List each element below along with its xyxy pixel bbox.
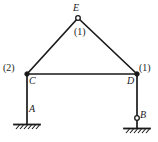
joint-label-C: C: [29, 76, 36, 86]
joint-label-B: B: [140, 110, 146, 120]
stiffness-label-apex: (1): [74, 27, 86, 37]
joint-marker-B-pin: [135, 116, 140, 121]
stiffness-label-left-column: (2): [3, 63, 15, 73]
frame-diagram-figure: E C D A B (1) (2) (1): [0, 0, 158, 142]
member-ED: [78, 18, 137, 74]
joint-label-A: A: [29, 104, 35, 114]
joint-label-D: D: [127, 76, 134, 86]
support-B: [124, 129, 150, 134]
frame-diagram-canvas: [0, 0, 158, 142]
support-A: [14, 125, 40, 130]
support-A-hatching: [16, 125, 40, 129]
member-CE: [27, 18, 78, 74]
stiffness-label-right-column: (1): [139, 63, 151, 73]
support-B-hatching: [126, 129, 150, 133]
joint-label-E: E: [73, 3, 79, 13]
joint-marker-E: [76, 16, 81, 21]
